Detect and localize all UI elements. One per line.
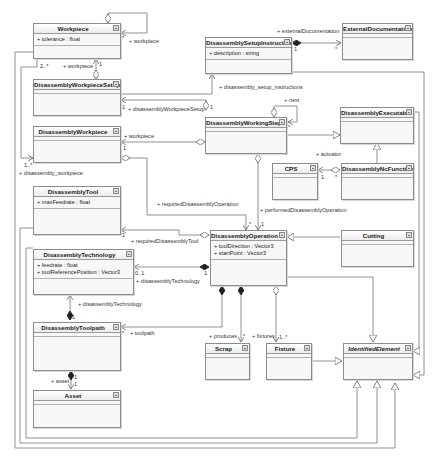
multiplicity-label: 1 [74, 374, 77, 381]
class-disassembly-setup-instruction[interactable]: DisassemblySetupInstruction + descriptio… [205, 37, 292, 74]
attribute-list [342, 241, 413, 245]
attribute-list [206, 128, 286, 132]
class-disassembly-technology[interactable]: DisassemblyTechnology + feedrate : float… [33, 249, 134, 295]
attribute: + toolReferencePosition : Vector3 [37, 269, 130, 276]
attribute-list [343, 34, 412, 38]
class-disassembly-working-step[interactable]: DisassemblyWorkingStep [205, 117, 287, 154]
class-icon [406, 165, 412, 171]
class-header: DisassemblySetupInstruction [206, 38, 291, 48]
class-name: DisassemblyTool [48, 188, 98, 195]
attribute-list [34, 401, 120, 405]
role-label: + disassembly_workpiece [19, 170, 83, 177]
class-icon [310, 165, 316, 171]
attribute: + toolDirection : Vector3 [214, 243, 283, 250]
role-label: + disassemblyWorkpieceSetup [128, 106, 205, 113]
attribute-list [342, 174, 413, 178]
role-label: + asset [51, 378, 69, 385]
class-header: ExternalDocumentation [343, 24, 412, 34]
role-label: + workpiece [124, 133, 154, 140]
role-label: + performedDisassemblyOperation [260, 207, 347, 214]
role-label: + produces [209, 333, 237, 340]
class-name: DisassemblySetupInstruction [206, 39, 291, 46]
class-fixture[interactable]: Fixture [266, 343, 312, 380]
class-name: DisassemblyWorkpiece [38, 128, 107, 135]
class-disassembly-workpiece-setup[interactable]: DisassemblyWorkpieceSetup [33, 79, 121, 116]
class-name: DisassemblyExecutable [341, 109, 412, 116]
class-icon [279, 232, 285, 238]
class-name: IdentifiedElement [348, 345, 400, 352]
class-identified-element[interactable]: IdentifiedElement [343, 343, 413, 380]
multiplicity-label: 2..* [40, 63, 48, 70]
class-asset[interactable]: Asset [33, 390, 121, 428]
role-label: + workpiece [129, 38, 159, 45]
attribute: + feedrate : float [37, 262, 130, 269]
multiplicity-label: 1 [122, 232, 125, 239]
class-cutting[interactable]: Cutting [341, 230, 414, 267]
class-name: Fixture [275, 345, 296, 352]
multiplicity-label: 1 [261, 221, 264, 228]
role-label: + disassembly_setup_instructions [219, 84, 303, 91]
class-icon [406, 109, 412, 115]
attribute-list: + tolerance : float [34, 34, 120, 46]
class-header: Scrap [206, 344, 249, 354]
role-label: + requiredDisassemblyOperation [157, 201, 239, 208]
role-label: + disassemblyTechnology [136, 278, 200, 285]
role-label: + externalDocumentation [277, 28, 339, 35]
attribute-list: + toolDirection : Vector3 + startPoint :… [211, 241, 286, 260]
class-name: DisassemblyOperation [211, 232, 278, 239]
class-disassembly-nc-function[interactable]: DisassemblyNcFunction [341, 163, 414, 200]
class-header: DisassemblyOperation [211, 231, 286, 241]
attribute: + description : string [209, 50, 288, 57]
multiplicity-label: 1 [294, 46, 297, 53]
class-icon [284, 39, 290, 45]
attribute: + startPoint : Vector3 [214, 250, 283, 257]
class-header: DisassemblyTechnology [34, 250, 133, 260]
class-icon [113, 324, 119, 330]
role-label: + fixtures [252, 333, 275, 340]
multiplicity-label: 1 [72, 314, 75, 321]
class-header: Fixture [267, 344, 311, 354]
role-label: + workpiece [63, 63, 93, 70]
attribute-list: + description : string [206, 48, 291, 60]
class-header: Cutting [342, 231, 413, 241]
class-icon [279, 119, 285, 125]
class-cps[interactable]: CPS [272, 163, 318, 200]
class-disassembly-executable[interactable]: DisassemblyExecutable [340, 107, 414, 144]
class-scrap[interactable]: Scrap [205, 343, 250, 380]
multiplicity-label: * [335, 46, 337, 53]
multiplicity-label: * [122, 35, 124, 42]
class-icon [406, 232, 412, 238]
class-icon [113, 188, 119, 194]
class-external-documentation[interactable]: ExternalDocumentation [342, 23, 413, 60]
role-label: + requiredDisassemblyTool [131, 238, 198, 245]
multiplicity-label: 1 [210, 104, 213, 111]
attribute-list: + maxFeedrate : float [34, 197, 120, 209]
class-icon [405, 25, 411, 31]
multiplicity-label: 1 [74, 381, 77, 388]
class-name: DisassemblyToolpath [41, 324, 105, 331]
class-disassembly-operation[interactable]: DisassemblyOperation + toolDirection : V… [210, 230, 287, 286]
class-icon [242, 345, 248, 351]
multiplicity-label: 1 [204, 270, 207, 277]
class-icon [113, 128, 119, 134]
class-disassembly-workpiece[interactable]: DisassemblyWorkpiece [33, 126, 121, 163]
multiplicity-label: 1 [321, 174, 324, 181]
class-icon [113, 81, 119, 87]
class-icon [113, 25, 119, 31]
multiplicity-label: 1 [99, 61, 102, 68]
class-header: DisassemblyWorkpiece [34, 127, 120, 137]
multiplicity-label: 1..* [24, 162, 32, 169]
class-header: DisassemblyWorkingStep [206, 118, 286, 128]
class-header: DisassemblyTool [34, 187, 120, 197]
class-name: CPS [285, 165, 298, 172]
class-header: DisassemblyNcFunction [342, 164, 413, 174]
class-name: Workpiece [57, 25, 88, 32]
attribute-list [267, 354, 311, 358]
multiplicity-label: 0..1 [135, 270, 144, 277]
class-header: Workpiece [34, 24, 120, 34]
class-disassembly-toolpath[interactable]: DisassemblyToolpath [33, 322, 121, 371]
attribute-list [34, 137, 120, 141]
class-disassembly-tool[interactable]: DisassemblyTool + maxFeedrate : float [33, 186, 121, 235]
class-workpiece[interactable]: Workpiece + tolerance : float [33, 23, 121, 59]
role-label: + actuator [316, 151, 341, 158]
